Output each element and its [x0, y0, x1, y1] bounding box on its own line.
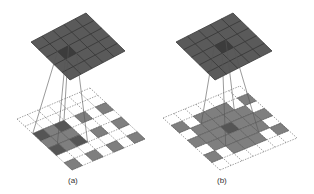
input-cell: [85, 149, 103, 161]
input-cell: [95, 103, 113, 115]
input-cell: [237, 93, 256, 105]
input-cell: [171, 121, 190, 133]
input-cell: [64, 158, 82, 170]
input-cell: [204, 151, 223, 163]
panel-a: [17, 13, 145, 170]
input-cell: [106, 141, 124, 153]
caption-b: (b): [217, 176, 227, 185]
panel-b: [163, 13, 297, 170]
input-grid: [163, 86, 297, 170]
output-grid: [31, 13, 125, 80]
dilated-convolution-figure: (a) (b): [0, 0, 314, 194]
input-cell: [270, 123, 289, 135]
projection-line: [33, 51, 58, 133]
input-cell: [90, 126, 108, 138]
input-cell: [127, 132, 145, 144]
caption-a: (a): [68, 176, 78, 185]
input-grid: [17, 88, 145, 170]
input-cell: [111, 117, 129, 129]
input-cell: [74, 111, 92, 123]
figure-canvas: [0, 0, 314, 194]
output-grid: [176, 13, 272, 80]
